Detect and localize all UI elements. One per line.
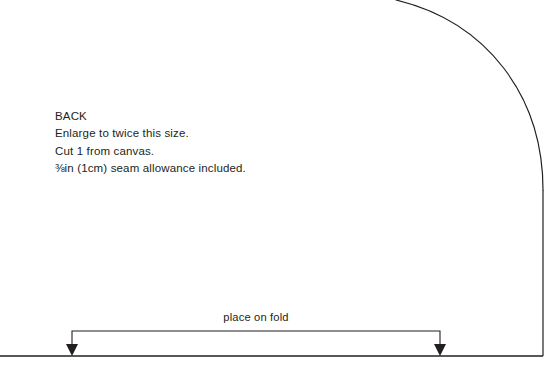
fold-arrow-right-icon xyxy=(434,344,446,356)
piece-name-label: BACK xyxy=(55,108,246,125)
place-on-fold-label: place on fold xyxy=(72,311,440,324)
seam-fraction-glyph: ⅜ xyxy=(55,160,65,177)
seam-allowance-text: in (1cm) seam allowance included. xyxy=(65,162,246,174)
pattern-sheet: BACK Enlarge to twice this size. Cut 1 f… xyxy=(0,0,549,371)
cut-instruction-label: Cut 1 from canvas. xyxy=(55,143,246,160)
fold-arrow-left-icon xyxy=(66,344,78,356)
enlarge-instruction-label: Enlarge to twice this size. xyxy=(55,125,246,142)
place-on-fold-bracket xyxy=(72,331,440,348)
pattern-annotations: BACK Enlarge to twice this size. Cut 1 f… xyxy=(55,108,246,178)
seam-allowance-label: ⅜in (1cm) seam allowance included. xyxy=(55,160,246,177)
pattern-curved-edge xyxy=(396,0,543,190)
